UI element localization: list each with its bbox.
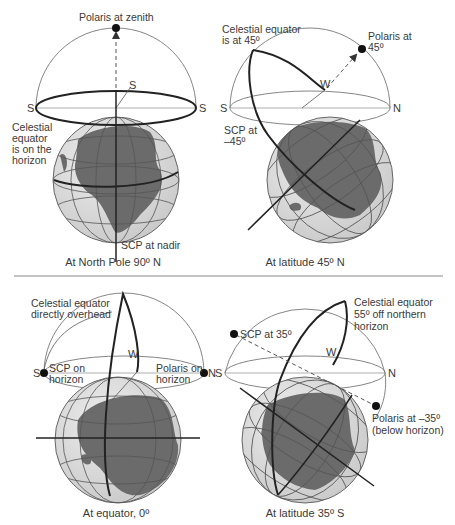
direction-w: W [320, 78, 330, 90]
direction-s-right: S [199, 102, 206, 114]
label-celestial-equator-55-line2: 55º off northern [354, 309, 426, 320]
label-scp-on-horizon-line2: horizon [49, 374, 83, 385]
scp-dot [40, 369, 48, 377]
direction-s: S [215, 367, 222, 379]
label-scp-minus45-line2: –45º [224, 136, 245, 147]
label-celestial-equator-55-line3: horizon [354, 321, 388, 332]
caption-latitude-45n: At latitude 45º N [265, 256, 344, 268]
label-celestial-equator-45-line2: is at 45º [222, 35, 260, 46]
caption-north-pole: At North Pole 90º N [65, 256, 161, 268]
direction-s-back: S [129, 79, 136, 91]
panel-latitude-45n [230, 28, 410, 259]
label-polaris-minus35-line2: (below horizon) [372, 425, 444, 436]
caption-latitude-35s: At latitude 35º S [266, 507, 345, 519]
panel-north-pole [36, 24, 196, 262]
caption-equator: At equator, 0º [83, 507, 149, 519]
direction-s: S [220, 102, 227, 114]
label-polaris-minus35-line1: Polaris at –35º [372, 413, 440, 424]
label-polaris-45-line2: 45º [368, 42, 384, 53]
globe-equator [55, 377, 181, 503]
direction-n: N [393, 102, 401, 114]
globe-latitude-35s [225, 360, 384, 519]
direction-w: W [128, 348, 138, 360]
polaris-dot [112, 24, 120, 32]
label-polaris-on-horizon-line2: horizon [156, 374, 190, 385]
globe-latitude-45n [250, 101, 411, 259]
label-scp-at-35: SCP at 35º [240, 329, 292, 340]
label-celestial-equator-overhead-line2: directly overhead [31, 309, 111, 320]
polaris-dot [372, 402, 380, 410]
polaris-dot [358, 45, 366, 53]
scp-dot [230, 330, 238, 338]
direction-n: N [388, 367, 396, 379]
direction-w: W [326, 346, 336, 358]
label-celestial-equator-55-line1: Celestial equator [354, 297, 433, 308]
label-celestial-equator-line4: horizon [12, 155, 46, 166]
label-scp-at-nadir: SCP at nadir [121, 240, 180, 251]
label-polaris-at-zenith: Polaris at zenith [79, 12, 154, 23]
panel-equator [36, 293, 208, 503]
direction-s-left: S [27, 102, 34, 114]
direction-s: S [33, 367, 40, 379]
